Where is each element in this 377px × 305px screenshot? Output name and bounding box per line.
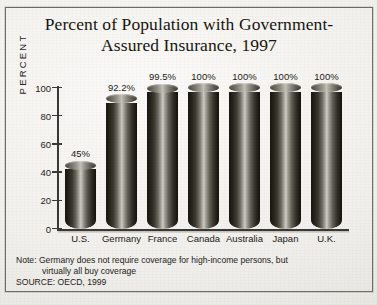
x-category-label-france: France (148, 233, 178, 244)
x-category-label-australia: Australia (226, 233, 263, 244)
bar-us[interactable]: 45% (65, 165, 96, 228)
x-category-label-germany: Germany (102, 233, 141, 244)
x-category-label-uk: U.K. (317, 233, 335, 244)
y-tick-mark-0 (52, 228, 62, 229)
bar-value-label: 100% (191, 71, 215, 82)
bar-top-cap (188, 83, 219, 92)
bar-value-label: 92.2% (108, 82, 135, 93)
bar-body (270, 92, 301, 229)
bar-top-cap (311, 83, 342, 92)
bar-top-cap (147, 84, 178, 93)
bar-uk[interactable]: 100% (311, 88, 342, 229)
bar-germany[interactable]: 92.2% (106, 99, 137, 229)
y-tick-mark-80 (52, 115, 62, 116)
footnote-source: SOURCE: OECD, 1999 (16, 277, 360, 288)
y-tick-mark-60 (52, 143, 62, 144)
y-tick-mark-40 (52, 171, 62, 172)
bar-value-label: 100% (273, 71, 297, 82)
x-category-label-japan: Japan (273, 233, 299, 244)
x-category-label-canada: Canada (187, 233, 220, 244)
bar-japan[interactable]: 100% (270, 88, 301, 229)
footnote-note-line-2: virtually all buy coverage (16, 266, 360, 277)
bar-value-label: 45% (71, 148, 90, 159)
bar-value-label: 99.5% (149, 71, 176, 82)
bar-body (229, 92, 260, 229)
bar-top-cap (106, 94, 137, 103)
y-tick-mark-20 (52, 200, 62, 201)
x-category-label-us: U.S. (71, 233, 89, 244)
bar-canada[interactable]: 100% (188, 88, 219, 229)
bar-value-label: 100% (314, 71, 338, 82)
bar-body (311, 92, 342, 229)
chart-footnote: Note: Germany does not require coverage … (16, 255, 360, 288)
bar-top-cap (270, 83, 301, 92)
bar-australia[interactable]: 100% (229, 88, 260, 229)
bar-top-cap (65, 161, 96, 170)
bar-value-label: 100% (232, 71, 256, 82)
bar-body (147, 92, 178, 228)
footnote-note-line-1: Note: Germany does not require coverage … (16, 255, 288, 265)
bar-body (65, 169, 96, 228)
y-tick-mark-100 (52, 87, 62, 88)
bar-body (188, 92, 219, 229)
bar-body (106, 103, 137, 229)
bar-france[interactable]: 99.5% (147, 88, 178, 228)
bar-top-cap (229, 83, 260, 92)
